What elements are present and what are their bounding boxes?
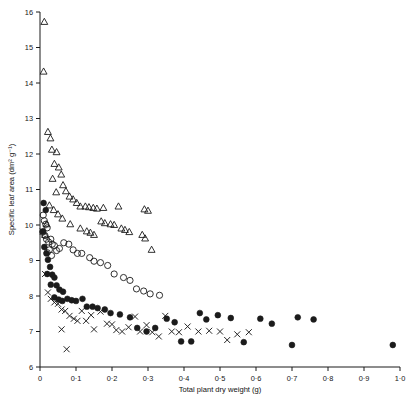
point-triangle bbox=[55, 211, 62, 217]
x-tick-label: 0 bbox=[38, 374, 42, 383]
point-filled-circle bbox=[311, 317, 317, 323]
y-tick-label: 9 bbox=[29, 256, 33, 265]
x-tick-label: 0·1 bbox=[71, 374, 82, 383]
y-tick-label: 6 bbox=[29, 363, 33, 372]
point-filled-circle bbox=[144, 329, 150, 335]
y-tick-label: 8 bbox=[29, 292, 33, 301]
point-triangle bbox=[51, 160, 58, 166]
point-open-circle bbox=[70, 247, 76, 253]
point-triangle bbox=[41, 18, 48, 24]
y-tick-label: 14 bbox=[25, 79, 33, 88]
point-filled-circle bbox=[80, 296, 86, 302]
y-axis-title: Specific leaf area (dm² g⁻¹) bbox=[7, 143, 16, 235]
chart-svg: 67891011121314151600·10·20·30·40·50·60·7… bbox=[0, 0, 414, 400]
point-filled-circle bbox=[390, 342, 396, 348]
point-filled-circle bbox=[257, 316, 263, 322]
point-triangle bbox=[53, 189, 60, 195]
point-triangle bbox=[58, 171, 65, 177]
y-tick-label: 12 bbox=[25, 150, 33, 159]
point-filled-circle bbox=[45, 257, 51, 263]
chart-labels: Total plant dry weight (g)Specific leaf … bbox=[7, 143, 262, 394]
point-triangle bbox=[115, 203, 122, 209]
point-filled-circle bbox=[295, 314, 301, 320]
x-tick-label: 0·3 bbox=[143, 374, 154, 383]
point-filled-circle bbox=[41, 244, 47, 250]
point-triangle bbox=[60, 182, 67, 188]
x-tick-label: 0·8 bbox=[323, 374, 334, 383]
point-triangle bbox=[40, 68, 47, 74]
x-axis-title: Total plant dry weight (g) bbox=[179, 385, 262, 394]
series-triangle bbox=[40, 18, 155, 252]
point-filled-circle bbox=[41, 200, 47, 206]
point-filled-circle bbox=[52, 275, 58, 281]
point-triangle bbox=[44, 128, 51, 134]
point-filled-circle bbox=[197, 310, 203, 316]
point-triangle bbox=[77, 225, 84, 231]
point-triangle bbox=[67, 221, 74, 227]
point-open-circle bbox=[87, 255, 93, 261]
y-tick-label: 7 bbox=[29, 327, 33, 336]
point-triangle bbox=[48, 146, 55, 152]
point-filled-circle bbox=[73, 298, 79, 304]
x-tick-label: 1·0 bbox=[395, 374, 406, 383]
point-triangle bbox=[59, 215, 66, 221]
point-filled-circle bbox=[60, 289, 66, 295]
point-filled-circle bbox=[43, 207, 49, 213]
point-open-circle bbox=[133, 286, 139, 292]
y-tick-label: 13 bbox=[25, 114, 33, 123]
point-filled-circle bbox=[289, 342, 295, 348]
point-filled-circle bbox=[44, 251, 50, 257]
point-filled-circle bbox=[172, 319, 178, 325]
point-filled-circle bbox=[188, 339, 194, 345]
point-triangle bbox=[50, 206, 57, 212]
point-triangle bbox=[100, 204, 107, 210]
y-tick-label: 10 bbox=[25, 221, 33, 230]
x-tick-label: 0·2 bbox=[107, 374, 118, 383]
x-tick-label: 0·6 bbox=[251, 374, 262, 383]
point-open-circle bbox=[156, 292, 162, 298]
data-points bbox=[40, 18, 396, 352]
series-filled-circle bbox=[40, 200, 396, 348]
x-tick-label: 0·7 bbox=[287, 374, 298, 383]
point-filled-circle bbox=[228, 315, 234, 321]
scatter-chart: 67891011121314151600·10·20·30·40·50·60·7… bbox=[0, 0, 414, 400]
point-triangle bbox=[49, 175, 56, 181]
point-open-circle bbox=[127, 277, 133, 283]
point-open-circle bbox=[97, 260, 103, 266]
point-triangle bbox=[47, 135, 54, 141]
point-open-circle bbox=[91, 258, 97, 264]
point-filled-circle bbox=[269, 321, 275, 327]
point-triangle bbox=[148, 246, 155, 252]
point-filled-circle bbox=[178, 339, 184, 345]
point-filled-circle bbox=[84, 304, 90, 310]
point-triangle bbox=[55, 164, 62, 170]
point-filled-circle bbox=[108, 310, 114, 316]
y-tick-label: 11 bbox=[25, 185, 33, 194]
point-filled-circle bbox=[47, 264, 53, 270]
point-open-circle bbox=[105, 262, 111, 268]
y-tick-label: 15 bbox=[25, 43, 33, 52]
point-open-circle bbox=[120, 274, 126, 280]
y-tick-label: 16 bbox=[25, 8, 33, 17]
point-filled-circle bbox=[215, 312, 221, 318]
point-filled-circle bbox=[241, 339, 247, 345]
point-filled-circle bbox=[48, 282, 54, 288]
point-triangle bbox=[62, 188, 69, 194]
x-tick-label: 0·4 bbox=[179, 374, 190, 383]
point-open-circle bbox=[79, 250, 85, 256]
point-triangle bbox=[46, 202, 53, 208]
point-open-circle bbox=[147, 291, 153, 297]
x-tick-label: 0·5 bbox=[215, 374, 226, 383]
point-open-circle bbox=[141, 288, 147, 294]
point-filled-circle bbox=[117, 312, 123, 318]
chart-axes: 67891011121314151600·10·20·30·40·50·60·7… bbox=[25, 8, 406, 383]
x-tick-label: 0·9 bbox=[359, 374, 370, 383]
point-open-circle bbox=[111, 271, 117, 277]
point-filled-circle bbox=[203, 317, 209, 323]
